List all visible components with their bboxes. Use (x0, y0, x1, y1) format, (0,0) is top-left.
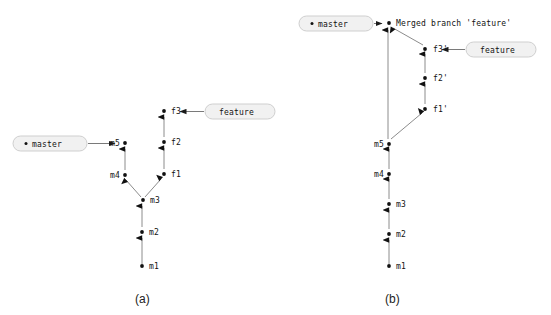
panel-b: m1 m2 m3 m4 m5 f1' f2' f3' Merged branch… (299, 16, 536, 306)
edge-m3-m4 (126, 180, 141, 197)
master-ref-bullet-icon-b (311, 22, 314, 25)
panel-b-feature-ref[interactable]: feature (442, 42, 536, 57)
panel-a-master-ref[interactable]: master (13, 136, 115, 151)
commit-label-f3: f3 (171, 107, 181, 116)
commit-node-b-m4[interactable] (387, 172, 391, 176)
commit-label-m2: m2 (149, 228, 159, 237)
commit-label-m4: m4 (110, 171, 120, 180)
commit-node-b-merge[interactable] (387, 21, 391, 25)
master-ref-label-b: master (318, 20, 348, 29)
master-ref-bullet-icon (25, 142, 28, 145)
commit-label-b-f1p: f1' (433, 105, 448, 114)
commit-node-b-f3p[interactable] (423, 47, 427, 51)
commit-node-m1[interactable] (140, 264, 144, 268)
commit-node-m2[interactable] (140, 230, 144, 234)
commit-label-m1: m1 (149, 262, 159, 271)
commit-node-b-m5[interactable] (387, 142, 391, 146)
commit-node-f1[interactable] (162, 172, 166, 176)
commit-label-b-m1: m1 (396, 262, 406, 271)
commit-node-f2[interactable] (162, 140, 166, 144)
feature-ref-label: feature (219, 108, 254, 117)
panel-b-edges (388, 28, 425, 264)
commit-label-b-m2: m2 (396, 230, 406, 239)
commit-label-b-m3: m3 (396, 200, 406, 209)
commit-node-b-m2[interactable] (387, 232, 391, 236)
commit-node-b-m1[interactable] (387, 264, 391, 268)
commit-label-f2: f2 (171, 138, 181, 147)
commit-node-m5[interactable] (123, 141, 127, 145)
commit-label-b-m5: m5 (374, 140, 384, 149)
panel-a-edges (125, 117, 164, 264)
feature-ref-label-b: feature (480, 46, 515, 55)
commit-label-b-merge: Merged branch 'feature' (396, 19, 511, 28)
panel-b-caption: (b) (385, 292, 400, 306)
diagram-canvas: m1 m2 m3 m4 m5 f1 f2 f3 ma (0, 0, 551, 315)
edge-b-f3p-merge (393, 28, 423, 45)
commit-label-b-f2p: f2' (433, 74, 448, 83)
edge-b-m5-f1p (391, 113, 422, 139)
edge-m3-f1 (145, 179, 161, 197)
panel-a-feature-ref[interactable]: feature (180, 104, 275, 119)
commit-node-b-f1p[interactable] (423, 107, 427, 111)
commit-node-b-f2p[interactable] (423, 76, 427, 80)
git-history-diagram: m1 m2 m3 m4 m5 f1 f2 f3 ma (0, 0, 551, 315)
commit-node-b-m3[interactable] (387, 202, 391, 206)
commit-label-m3: m3 (150, 196, 160, 205)
panel-a: m1 m2 m3 m4 m5 f1 f2 f3 ma (13, 104, 275, 306)
commit-node-m3[interactable] (141, 198, 145, 202)
commit-node-f3[interactable] (162, 109, 166, 113)
commit-node-m4[interactable] (123, 173, 127, 177)
commit-label-b-m4: m4 (374, 170, 384, 179)
commit-label-f1: f1 (171, 170, 181, 179)
panel-b-master-ref[interactable]: master (299, 16, 382, 31)
master-ref-label: master (32, 140, 62, 149)
panel-a-caption: (a) (135, 292, 150, 306)
panel-a-nodes: m1 m2 m3 m4 m5 f1 f2 f3 (110, 107, 181, 271)
